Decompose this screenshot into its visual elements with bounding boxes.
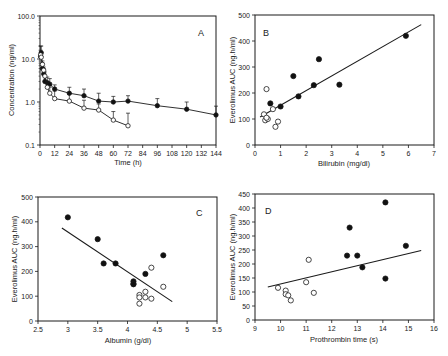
panel-c-albumin-auc: 2.533.544.555.50100200300400500 C Albumi… [10,194,222,346]
x-tick-label: 96 [153,150,161,157]
y-tick-label: 150 [238,275,250,282]
data-point-open [48,91,52,95]
x-tick-label: 5 [185,326,189,333]
data-point-open [273,124,278,129]
x-tick-label: 15 [405,325,413,332]
y-tick-label: 500 [238,12,250,19]
y-tick-label: 200 [21,268,33,275]
panel-d-y-axis-label: Everolimus AUC (ng.h/ml) [228,213,237,300]
data-point-filled [360,265,365,270]
y-tick-label: 300 [21,243,33,250]
y-tick-label: 350 [238,219,250,226]
data-point-open [52,96,56,100]
data-point-open [288,298,293,303]
x-tick-label: 9 [253,325,257,332]
data-point-filled [52,87,56,91]
data-point-open [126,124,130,128]
x-tick-label: 7 [432,150,436,157]
data-point-open [149,296,154,301]
y-tick-label: 10.0 [21,56,35,63]
y-tick-label: 0.1 [25,142,35,149]
y-tick-label: 0 [246,142,250,149]
data-point-open [286,293,291,298]
panel-b-x-axis-label: Bilirubin (mg/dl) [318,159,371,168]
x-tick-label: 3 [66,326,70,333]
data-point-filled [347,225,352,230]
data-point-open [137,301,142,306]
y-tick-label: 100 [21,293,33,300]
x-tick-label: 84 [139,150,147,157]
data-point-open [137,295,142,300]
data-point-filled [95,237,100,242]
data-point-filled [65,215,70,220]
data-point-open [41,68,45,72]
y-tick-label: 400 [238,38,250,45]
data-point-open [264,115,269,120]
data-point-open [149,265,154,270]
panel-d-prothrombin-auc: 9101112131415160501001502002503003504004… [228,191,438,345]
x-tick-label: 144 [210,150,222,157]
data-point-filled [96,99,100,103]
data-point-open [304,280,309,285]
x-tick-label: 16 [430,325,438,332]
x-tick-label: 10 [277,325,285,332]
data-point-filled [126,99,130,103]
panel-a-concentration-time: 012243648607284961081201321440.11.010.01… [7,13,222,168]
data-point-open [264,87,269,92]
y-tick-label: 0 [29,318,33,325]
panel-c-label: C [196,208,203,218]
series-line-filled [41,53,216,115]
y-tick-label: 0 [246,317,250,324]
panel-a-x-axis-label: Time (h) [114,158,142,167]
x-tick-label: 60 [109,150,117,157]
data-point-filled [113,261,118,266]
x-tick-label: 36 [80,150,88,157]
x-tick-label: 0 [38,150,42,157]
data-point-open [43,74,47,78]
data-point-filled [278,104,283,109]
y-tick-label: 50 [242,303,250,310]
x-tick-label: 108 [166,150,178,157]
regression-line [260,25,421,117]
x-tick-label: 2.5 [33,326,43,333]
data-point-filled [344,253,349,258]
data-point-filled [291,74,296,79]
x-tick-label: 0 [253,150,257,157]
data-point-filled [403,33,408,38]
y-tick-label: 100 [238,116,250,123]
panel-d-x-axis-label: Prothrombin time (s) [310,335,378,344]
data-point-open [275,285,280,290]
x-tick-label: 2 [304,150,308,157]
data-point-open [275,119,280,124]
y-tick-label: 100 [238,289,250,296]
panel-b-y-axis-label: Everolimus AUC (ng.h/ml) [228,36,237,123]
y-tick-label: 200 [238,261,250,268]
figure: 012243648607284961081201321440.11.010.01… [0,0,448,356]
panel-c-x-axis-label: Albumin (g/dl) [105,336,152,345]
y-tick-label: 500 [21,194,33,201]
x-tick-label: 4.5 [152,326,162,333]
panel-a-label: A [198,28,204,38]
data-point-filled [214,113,218,117]
x-tick-label: 120 [181,150,193,157]
data-point-open [161,284,166,289]
y-tick-label: 100.0 [17,13,35,20]
x-tick-label: 14 [379,325,387,332]
x-tick-label: 5 [381,150,385,157]
x-tick-label: 3 [330,150,334,157]
panel-b-bilirubin-auc: 012345670100200300400500 B Bilirubin (mg… [228,12,436,169]
data-point-open [143,289,148,294]
panel-d-label: D [265,206,272,216]
x-tick-label: 132 [195,150,207,157]
data-point-open [111,118,115,122]
data-point-open [96,108,100,112]
panel-a-plot-area: 012243648607284961081201321440.11.010.01… [17,13,221,158]
data-point-filled [161,253,166,258]
data-point-filled [316,57,321,62]
data-point-filled [296,94,301,99]
data-point-open [306,257,311,262]
y-tick-label: 450 [238,191,250,198]
x-tick-label: 3.5 [93,326,103,333]
data-point-filled [268,101,273,106]
x-tick-label: 6 [406,150,410,157]
